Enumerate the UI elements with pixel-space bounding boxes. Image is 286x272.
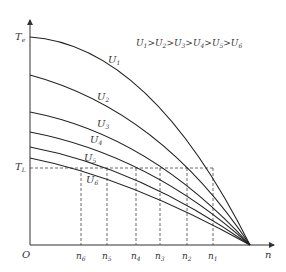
torque-speed-diagram: Te TL O n n6 n5 n4 n3 n2 n1 U1 U2 U3 U4 … — [0, 0, 286, 272]
curve-labels: U1 U2 U3 U4 U5 U6 — [84, 54, 120, 186]
torque-curves — [30, 37, 250, 245]
curve-u1 — [30, 37, 250, 245]
svg-text:n3: n3 — [155, 251, 165, 262]
load-torque-label: TL — [15, 161, 26, 173]
svg-text:n6: n6 — [76, 251, 86, 262]
curve-label-u3: U3 — [97, 118, 109, 130]
curve-label-u5: U5 — [84, 152, 96, 164]
curve-label-u4: U4 — [90, 134, 102, 146]
curve-u6 — [30, 158, 250, 245]
curve-u5 — [30, 147, 250, 245]
origin-label: O — [22, 249, 30, 260]
curve-label-u2: U2 — [97, 91, 109, 103]
x-axis-label: n — [265, 249, 271, 260]
curve-u4 — [30, 132, 250, 245]
speed-drop-lines — [81, 168, 213, 245]
svg-text:n5: n5 — [102, 251, 112, 262]
curve-u2 — [30, 75, 250, 245]
speed-tick-labels: n6 n5 n4 n3 n2 n1 — [76, 251, 218, 262]
y-axis-label: Te — [15, 31, 26, 43]
voltage-relation-label: U1>U2>U3>U4>U5>U6 — [136, 38, 242, 49]
svg-text:n2: n2 — [182, 251, 192, 262]
curve-label-u1: U1 — [108, 54, 120, 66]
curve-u3 — [30, 112, 250, 245]
svg-text:n4: n4 — [131, 251, 141, 262]
svg-text:n1: n1 — [208, 251, 218, 262]
